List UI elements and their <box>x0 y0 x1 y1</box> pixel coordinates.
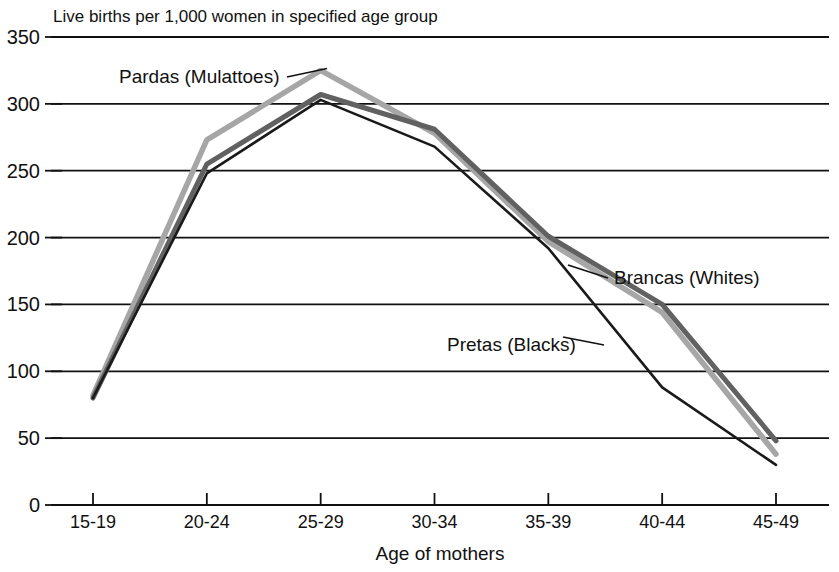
y-tick-label: 300 <box>7 93 40 115</box>
x-tick-label: 15-19 <box>70 512 116 532</box>
y-tick-label: 200 <box>7 227 40 249</box>
chart-figure: Live births per 1,000 women in specified… <box>0 0 839 572</box>
x-tick-label: 40-44 <box>639 512 685 532</box>
y-axis-tick-marks <box>45 37 62 505</box>
x-axis-title: Age of mothers <box>376 543 505 564</box>
annotation-leader-lines <box>287 68 608 345</box>
series-label-brancas: Brancas (Whites) <box>614 267 760 288</box>
y-tick-label: 0 <box>29 494 40 516</box>
y-tick-label: 50 <box>18 427 40 449</box>
chart-title: Live births per 1,000 women in specified… <box>53 7 438 26</box>
x-axis-tick-marks <box>93 493 776 505</box>
x-tick-label: 25-29 <box>298 512 344 532</box>
y-axis-tick-labels: 050100150200250300350 <box>7 26 40 516</box>
y-tick-label: 100 <box>7 360 40 382</box>
line-chart-canvas: Live births per 1,000 women in specified… <box>0 0 839 572</box>
x-tick-label: 35-39 <box>525 512 571 532</box>
x-tick-label: 20-24 <box>184 512 230 532</box>
y-tick-label: 150 <box>7 293 40 315</box>
y-tick-label: 250 <box>7 160 40 182</box>
x-axis-category-labels: 15-1920-2425-2930-3435-3940-4445-49 <box>70 512 799 532</box>
y-tick-label: 350 <box>7 26 40 48</box>
series-label-pretas: Pretas (Blacks) <box>447 334 576 355</box>
series-label-pardas: Pardas (Mulattoes) <box>119 66 280 87</box>
x-tick-label: 30-34 <box>411 512 457 532</box>
x-tick-label: 45-49 <box>753 512 799 532</box>
